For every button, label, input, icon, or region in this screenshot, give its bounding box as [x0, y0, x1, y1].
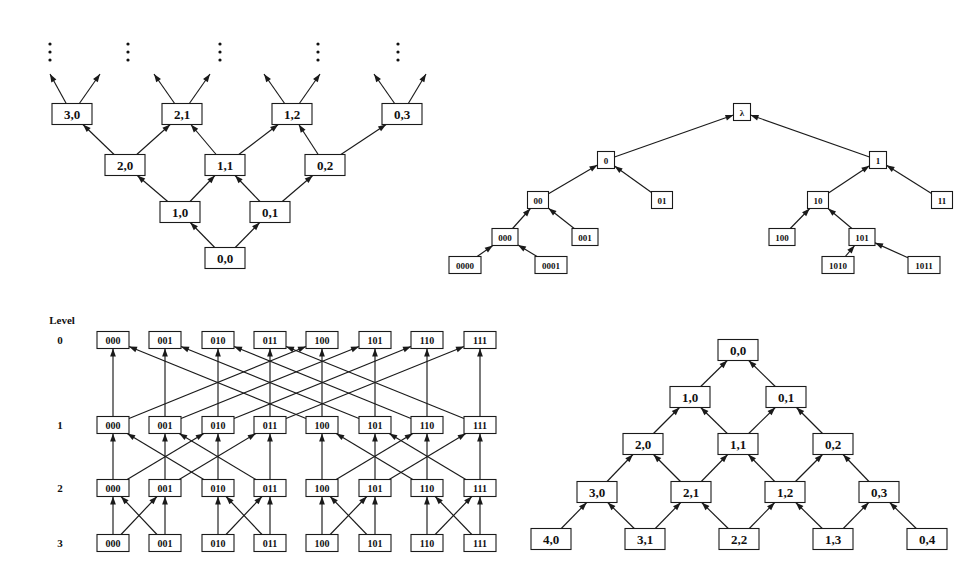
graph-node[interactable]: 1 — [870, 152, 887, 169]
node-label: 1010 — [829, 261, 848, 271]
graph-node[interactable]: 000 — [492, 229, 518, 246]
node-label: 101 — [368, 538, 383, 549]
graph-node[interactable]: 0,0 — [718, 340, 758, 361]
graph-node[interactable]: 0000 — [449, 257, 481, 274]
graph-node[interactable]: 10 — [808, 192, 829, 209]
graph-node[interactable]: 00 — [528, 192, 549, 209]
graph-node[interactable]: 010 — [202, 417, 234, 434]
graph-node[interactable]: 0,3 — [859, 482, 899, 503]
edge-arrowhead — [129, 347, 137, 353]
graph-node[interactable]: 101 — [359, 480, 391, 497]
graph-node[interactable]: 1,2 — [765, 482, 805, 503]
graph-node[interactable]: 010 — [202, 332, 234, 349]
graph-node[interactable]: 3,0 — [52, 104, 92, 125]
node-label: 101 — [368, 420, 383, 431]
graph-node[interactable]: 3,0 — [577, 482, 617, 503]
graph-node[interactable]: 000 — [97, 535, 129, 552]
graph-node[interactable]: 001 — [149, 332, 181, 349]
node-label: 1,1 — [730, 437, 746, 452]
graph-node[interactable]: 2,2 — [719, 529, 759, 550]
vertical-ellipsis — [218, 42, 221, 61]
graph-edge — [341, 125, 386, 155]
edge-arrowhead — [215, 349, 221, 357]
graph-node[interactable]: 100 — [306, 332, 338, 349]
node-label: 0,4 — [919, 532, 936, 547]
graph-node[interactable]: 2,0 — [623, 434, 663, 455]
graph-node[interactable]: 0,0 — [205, 248, 245, 269]
graph-node[interactable]: 100 — [769, 229, 795, 246]
graph-node[interactable]: 1011 — [908, 257, 940, 274]
graph-node[interactable]: 0,1 — [250, 202, 290, 223]
graph-node[interactable]: 010 — [202, 535, 234, 552]
graph-node[interactable]: 001 — [149, 480, 181, 497]
edge-arrowhead — [457, 434, 465, 441]
graph-node[interactable]: 000 — [97, 480, 129, 497]
node-label: 0,1 — [262, 205, 278, 220]
graph-node[interactable]: 110 — [411, 480, 443, 497]
graph-node[interactable]: 1010 — [822, 257, 854, 274]
edge-arrowhead — [110, 349, 116, 357]
graph-node[interactable]: 1,0 — [160, 202, 200, 223]
graph-node[interactable]: 111 — [464, 332, 496, 349]
graph-node[interactable]: 1,2 — [272, 104, 312, 125]
node-label: 11 — [938, 196, 947, 206]
graph-node[interactable]: 001 — [149, 535, 181, 552]
graph-node[interactable]: 1,0 — [670, 387, 710, 408]
graph-node[interactable]: 1,3 — [813, 529, 853, 550]
node-label: 0,0 — [217, 251, 233, 266]
graph-node[interactable]: 2,0 — [105, 155, 145, 176]
graph-node[interactable]: 101 — [359, 332, 391, 349]
graph-node[interactable]: 0 — [598, 152, 615, 169]
edge-arrowhead — [485, 246, 493, 253]
node-label: 0001 — [542, 261, 561, 271]
graph-node[interactable]: 001 — [572, 229, 598, 246]
graph-node[interactable]: 0,1 — [766, 387, 806, 408]
graph-node[interactable]: λ — [734, 104, 751, 121]
node-label: 100 — [315, 483, 330, 494]
graph-node[interactable]: 011 — [254, 332, 286, 349]
graph-node[interactable]: 001 — [149, 417, 181, 434]
graph-node[interactable]: 100 — [306, 480, 338, 497]
graph-node[interactable]: 000 — [97, 332, 129, 349]
graph-node[interactable]: 100 — [306, 535, 338, 552]
graph-node[interactable]: 11 — [932, 192, 953, 209]
graph-node[interactable]: 1,1 — [205, 155, 245, 176]
graph-node[interactable]: 01 — [652, 192, 673, 209]
graph-node[interactable]: 000 — [97, 417, 129, 434]
graph-node[interactable]: 2,1 — [162, 104, 202, 125]
graph-node[interactable]: 111 — [464, 417, 496, 434]
graph-node[interactable]: 0,2 — [305, 155, 345, 176]
graph-node[interactable]: 1,1 — [718, 434, 758, 455]
graph-node[interactable]: 0,2 — [813, 434, 853, 455]
graph-node[interactable]: 101 — [359, 417, 391, 434]
graph-node[interactable]: 011 — [254, 535, 286, 552]
node-label: 011 — [263, 335, 277, 346]
edge-arrowhead — [127, 434, 135, 441]
graph-node[interactable]: 110 — [411, 535, 443, 552]
graph-node[interactable]: 011 — [254, 480, 286, 497]
node-label: 10 — [814, 196, 824, 206]
graph-node[interactable]: 2,1 — [671, 482, 711, 503]
graph-node[interactable]: 0001 — [535, 257, 567, 274]
ellipsis-dot — [48, 42, 51, 45]
edge-arrowhead — [215, 434, 221, 442]
graph-node[interactable]: 4,0 — [531, 529, 571, 550]
graph-node[interactable]: 101 — [849, 229, 875, 246]
node-label: 010 — [211, 483, 226, 494]
edge-arrowhead — [270, 125, 278, 132]
graph-node[interactable]: 0,4 — [907, 529, 947, 550]
graph-node[interactable]: 111 — [464, 480, 496, 497]
graph-node[interactable]: 100 — [306, 417, 338, 434]
graph-node[interactable]: 3,1 — [625, 529, 665, 550]
graph-edge — [549, 165, 598, 194]
edge-arrowhead — [162, 349, 168, 357]
ellipsis-dot — [48, 50, 51, 53]
graph-node[interactable]: 011 — [254, 417, 286, 434]
ellipsis-dot — [218, 58, 221, 61]
graph-node[interactable]: 111 — [464, 535, 496, 552]
graph-node[interactable]: 101 — [359, 535, 391, 552]
graph-node[interactable]: 010 — [202, 480, 234, 497]
graph-node[interactable]: 110 — [411, 417, 443, 434]
graph-node[interactable]: 0,3 — [382, 104, 422, 125]
graph-node[interactable]: 110 — [411, 332, 443, 349]
